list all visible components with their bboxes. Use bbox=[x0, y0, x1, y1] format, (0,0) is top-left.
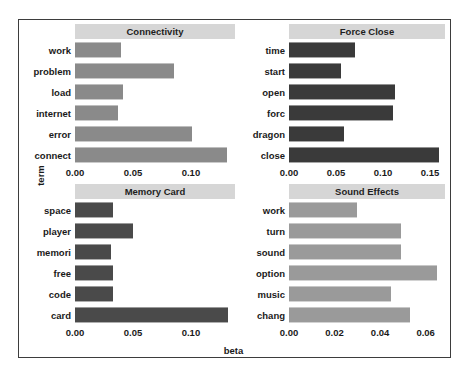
y-tick-label: code bbox=[7, 288, 71, 299]
panel-title: Memory Card bbox=[125, 186, 186, 197]
bar bbox=[75, 307, 228, 322]
x-tick-label: 0.10 bbox=[374, 167, 393, 178]
y-tick-label: music bbox=[221, 288, 285, 299]
bar bbox=[289, 105, 393, 120]
x-tick-label: 0.00 bbox=[280, 167, 299, 178]
bar bbox=[289, 307, 410, 322]
y-tick-label: free bbox=[7, 267, 71, 278]
x-tick-label: 0.05 bbox=[327, 167, 346, 178]
y-tick-label: load bbox=[7, 86, 71, 97]
bar bbox=[289, 244, 401, 259]
x-tick-label: 0.10 bbox=[182, 327, 201, 338]
y-tick-label: start bbox=[221, 65, 285, 76]
bar bbox=[75, 42, 121, 57]
y-tick-label: internet bbox=[7, 107, 71, 118]
bar bbox=[75, 126, 192, 141]
y-tick-label: space bbox=[7, 204, 71, 215]
x-tick-label: 0.15 bbox=[421, 167, 440, 178]
y-tick-label: dragon bbox=[221, 128, 285, 139]
x-tick-label: 0.02 bbox=[325, 327, 344, 338]
bar bbox=[75, 265, 113, 280]
x-tick-label: 0.04 bbox=[371, 327, 390, 338]
panel-strip-force-close: Force Close bbox=[289, 24, 445, 39]
bar bbox=[75, 244, 111, 259]
bar bbox=[75, 84, 123, 99]
x-tick-label: 0.10 bbox=[182, 167, 201, 178]
bar bbox=[75, 202, 113, 217]
faceted-bar-chart-figure: term beta Connectivityworkproblemloadint… bbox=[0, 0, 467, 379]
bar bbox=[289, 202, 357, 217]
bar bbox=[75, 223, 133, 238]
bar bbox=[289, 286, 391, 301]
bar bbox=[75, 147, 227, 162]
y-tick-label: error bbox=[7, 128, 71, 139]
bar bbox=[289, 126, 344, 141]
y-tick-label: problem bbox=[7, 65, 71, 76]
bar bbox=[289, 223, 401, 238]
y-tick-label: close bbox=[221, 149, 285, 160]
y-axis-title: term bbox=[35, 156, 46, 196]
panel-title: Sound Effects bbox=[335, 186, 399, 197]
bar bbox=[75, 63, 174, 78]
y-tick-label: time bbox=[221, 44, 285, 55]
y-tick-label: connect bbox=[7, 149, 71, 160]
bar bbox=[289, 84, 395, 99]
panel-strip-connectivity: Connectivity bbox=[75, 24, 235, 39]
x-tick-label: 0.00 bbox=[66, 327, 85, 338]
y-tick-label: open bbox=[221, 86, 285, 97]
panel-title: Connectivity bbox=[126, 26, 183, 37]
panel-strip-sound-effects: Sound Effects bbox=[289, 184, 445, 199]
y-tick-label: forc bbox=[221, 107, 285, 118]
x-tick-label: 0.05 bbox=[124, 167, 143, 178]
bar bbox=[289, 265, 437, 280]
bar bbox=[289, 147, 439, 162]
y-tick-label: option bbox=[221, 267, 285, 278]
bar bbox=[289, 63, 341, 78]
x-axis-title: beta bbox=[0, 345, 467, 356]
y-tick-label: chang bbox=[221, 309, 285, 320]
y-tick-label: player bbox=[7, 225, 71, 236]
x-tick-label: 0.05 bbox=[124, 327, 143, 338]
x-tick-label: 0.06 bbox=[416, 327, 435, 338]
y-tick-label: work bbox=[7, 44, 71, 55]
y-tick-label: card bbox=[7, 309, 71, 320]
bar bbox=[289, 42, 355, 57]
y-tick-label: memori bbox=[7, 246, 71, 257]
bar bbox=[75, 105, 118, 120]
y-tick-label: work bbox=[221, 204, 285, 215]
y-tick-label: sound bbox=[221, 246, 285, 257]
x-tick-label: 0.00 bbox=[280, 327, 299, 338]
panel-strip-memory-card: Memory Card bbox=[75, 184, 235, 199]
panel-title: Force Close bbox=[340, 26, 394, 37]
x-tick-label: 0.00 bbox=[66, 167, 85, 178]
y-tick-label: turn bbox=[221, 225, 285, 236]
bar bbox=[75, 286, 113, 301]
